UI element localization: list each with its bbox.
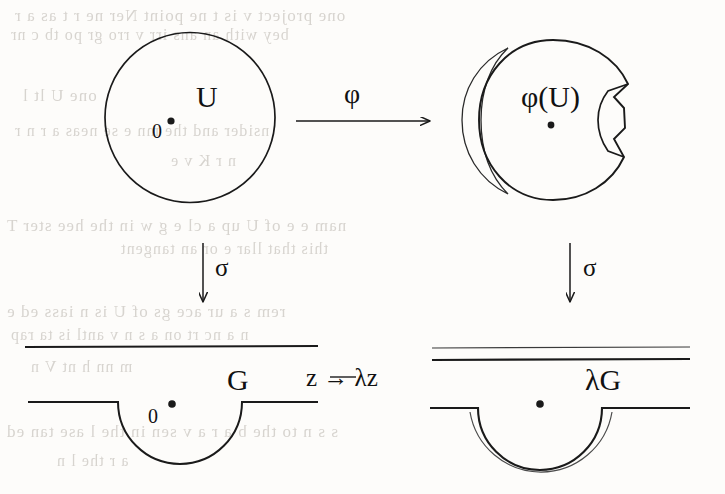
label-lambda-G: λG [585,363,621,397]
center-dot-bottom-right [536,400,544,408]
G-lower-boundary-with-notch [28,402,318,464]
circle-U-outline [105,33,275,203]
label-sigma-right: σ [583,254,596,282]
center-dot-phi-U [548,122,555,129]
node-bottom-right-lambda-G [430,347,690,472]
label-U: U [196,80,218,114]
figure-root: one project v is t ne point Ner ne r t a… [0,0,725,494]
node-top-left-U [105,33,275,203]
label-origin-bottom-left: 0 [148,405,158,428]
label-phi-of-U: φ(U) [521,80,580,114]
lambdaG-upper-boundary-line [432,359,690,360]
label-sigma-left: σ [215,254,228,282]
label-origin-top-left: 0 [152,120,162,143]
node-top-right-phi-U [462,40,628,200]
node-bottom-left-G [25,346,318,464]
lambdaG-lower-boundary-with-notch [430,408,690,470]
label-G: G [227,363,249,397]
label-bottom-map: z → λz [306,364,378,392]
label-arrow-phi: φ [344,78,360,110]
crescent-shadow-outline [462,48,508,194]
phi-U-body-outline [479,40,628,200]
lambdaG-upper-thin-line [432,347,690,348]
origin-dot-bottom-left [168,400,176,408]
origin-dot-top-left [167,117,174,124]
phi-U-notch-outline [598,84,628,157]
G-upper-boundary-line [25,346,318,347]
diagram-canvas [0,0,725,494]
